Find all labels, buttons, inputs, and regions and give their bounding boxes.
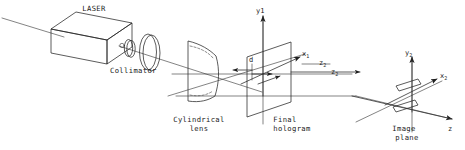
hologram-input-arrow [258,76,280,84]
cylindrical-lens-label-line1: Cylindrical [173,115,224,124]
collimator-label: Collimator [110,66,157,75]
coordinate-system-1 [168,16,356,96]
axis-label-x2: x2 [440,72,447,81]
dimension-d-markers [233,64,272,80]
laser-box [51,12,132,64]
final-hologram-label-line1: Final [273,115,296,124]
axis-label-z: z [448,125,452,133]
image-plane-slits [393,79,421,112]
dimension-label-d: d [249,56,253,64]
axis-label-y1: y1 [256,7,264,15]
optical-setup-figure: LASER Collimator Cylindrical lens Final … [0,0,465,150]
axis-label-z2-left: z2 [331,68,338,77]
axis-label-y2: y2 [405,49,412,58]
final-hologram-label-line2: hologram [273,124,310,133]
cylindrical-lens [188,41,219,102]
image-plane-label-line1: Image [392,124,415,133]
diagram-canvas: LASER Collimator Cylindrical lens Final … [0,0,465,150]
axis-label-z2-right: z2 [319,59,326,68]
axis-label-x1: x1 [302,50,309,59]
input-beam-line [2,18,64,37]
cylindrical-lens-label-line2: lens [190,124,209,133]
laser-label: LASER [82,4,106,13]
image-plane-label-line2: plane [395,133,418,142]
coordinate-system-2 [352,57,452,132]
